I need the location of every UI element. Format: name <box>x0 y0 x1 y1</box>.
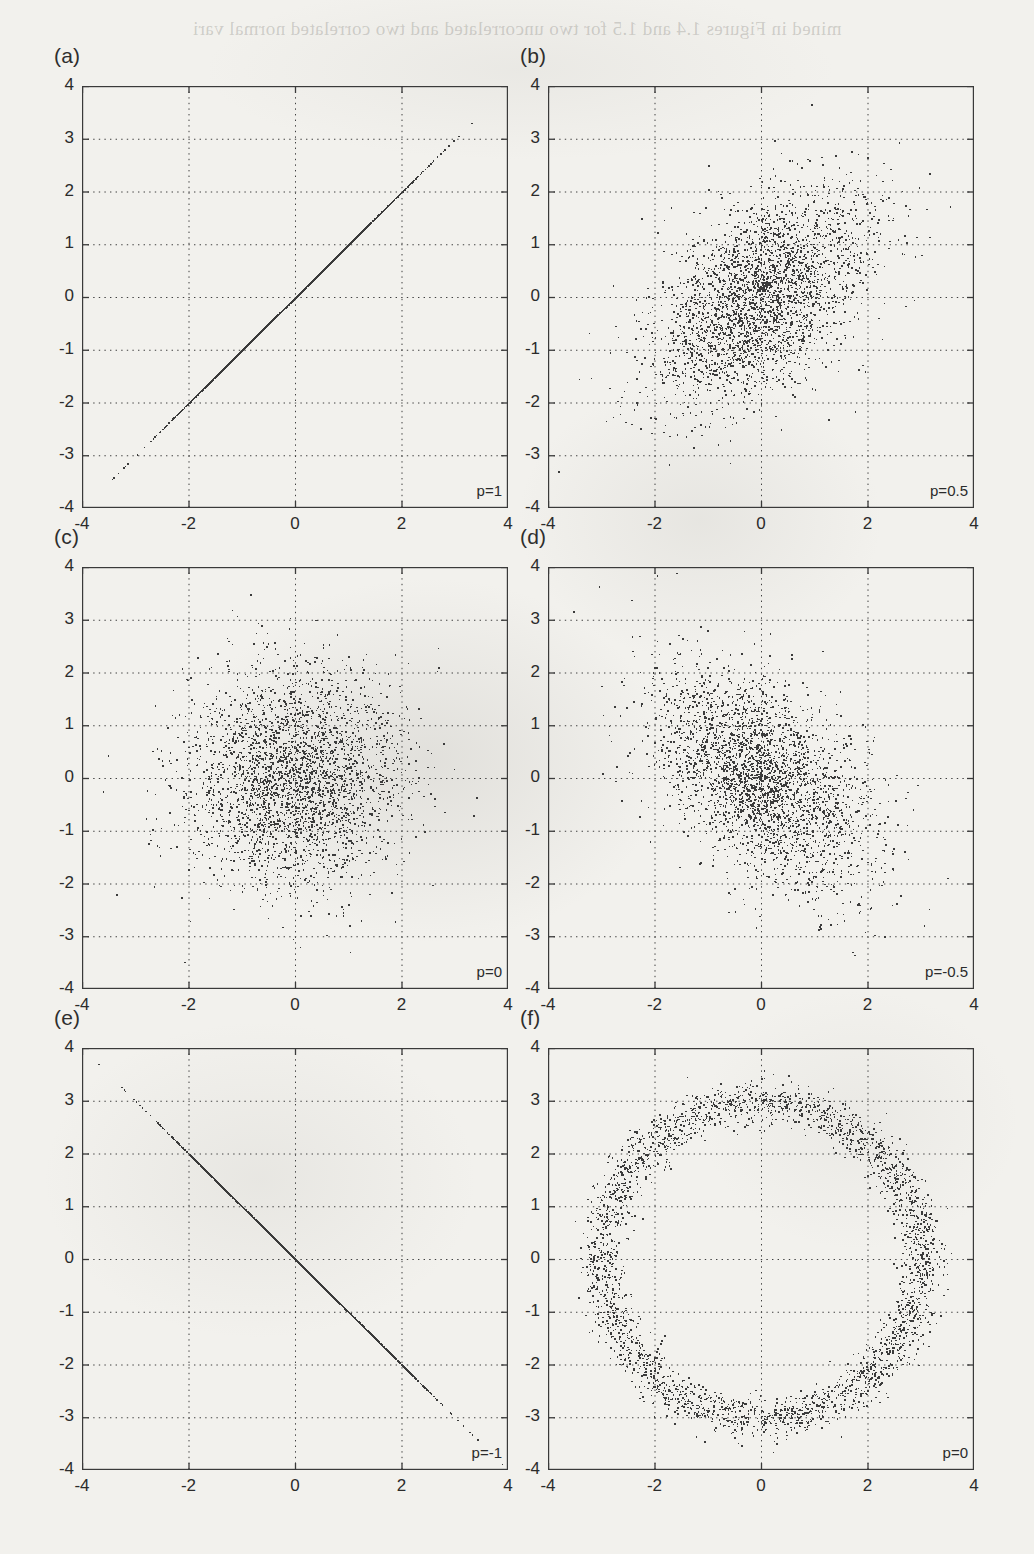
x-tick-label-f-4: 4 <box>954 1476 994 1496</box>
scatter-points-f <box>575 1070 953 1453</box>
y-tick-label-d-2: -2 <box>502 873 540 893</box>
x-tick-label-f-1: -2 <box>635 1476 675 1496</box>
plot-svg-c <box>82 567 508 989</box>
x-tick-label-e-0: -4 <box>62 1476 102 1496</box>
x-tick-label-d-3: 2 <box>848 995 888 1015</box>
gridlines-b <box>548 86 974 508</box>
plot-svg-a <box>82 86 508 508</box>
plot-area-c <box>82 567 508 989</box>
correlation-annotation-d: p=-0.5 <box>925 963 968 980</box>
plot-svg-b <box>548 86 974 508</box>
y-tick-label-f-1: -3 <box>502 1406 540 1426</box>
y-tick-label-c-1: -3 <box>36 925 74 945</box>
y-tick-label-c-4: 0 <box>36 767 74 787</box>
x-tick-label-e-1: -2 <box>169 1476 209 1496</box>
plot-area-a <box>82 86 508 508</box>
y-tick-label-e-7: 3 <box>36 1090 74 1110</box>
x-tick-label-e-2: 0 <box>275 1476 315 1496</box>
y-tick-label-f-3: -1 <box>502 1301 540 1321</box>
x-tick-label-d-2: 0 <box>741 995 781 1015</box>
scatter-points-d <box>548 573 949 956</box>
panel-label-c: (c) <box>54 525 79 549</box>
panel-label-f: (f) <box>520 1006 540 1030</box>
panel-label-d: (d) <box>520 525 546 549</box>
correlation-annotation-b: p=0.5 <box>930 482 968 499</box>
y-tick-label-e-3: -1 <box>36 1301 74 1321</box>
y-tick-label-d-5: 1 <box>502 714 540 734</box>
y-tick-label-a-7: 3 <box>36 128 74 148</box>
x-tick-label-a-1: -2 <box>169 514 209 534</box>
y-tick-label-e-8: 4 <box>36 1037 74 1057</box>
y-tick-label-b-2: -2 <box>502 392 540 412</box>
y-tick-label-a-1: -3 <box>36 444 74 464</box>
y-tick-label-c-5: 1 <box>36 714 74 734</box>
y-tick-label-d-4: 0 <box>502 767 540 787</box>
correlation-annotation-e: p=-1 <box>472 1444 502 1461</box>
y-tick-label-b-7: 3 <box>502 128 540 148</box>
y-tick-label-f-8: 4 <box>502 1037 540 1057</box>
scatter-points-e <box>98 1064 503 1465</box>
x-tick-label-f-3: 2 <box>848 1476 888 1496</box>
y-tick-label-e-5: 1 <box>36 1195 74 1215</box>
x-tick-label-d-4: 4 <box>954 995 994 1015</box>
y-tick-label-f-5: 1 <box>502 1195 540 1215</box>
x-tick-label-f-0: -4 <box>528 1476 568 1496</box>
x-tick-label-e-3: 2 <box>382 1476 422 1496</box>
y-tick-label-a-8: 4 <box>36 75 74 95</box>
x-tick-label-b-1: -2 <box>635 514 675 534</box>
y-tick-label-c-2: -2 <box>36 873 74 893</box>
y-tick-label-b-3: -1 <box>502 339 540 359</box>
x-tick-label-e-4: 4 <box>488 1476 528 1496</box>
correlation-annotation-f: p=0 <box>943 1444 968 1461</box>
y-tick-label-f-7: 3 <box>502 1090 540 1110</box>
y-tick-label-c-3: -1 <box>36 820 74 840</box>
x-tick-label-d-1: -2 <box>635 995 675 1015</box>
y-tick-label-d-8: 4 <box>502 556 540 576</box>
plot-svg-d <box>548 567 974 989</box>
x-tick-label-a-3: 2 <box>382 514 422 534</box>
y-tick-label-a-6: 2 <box>36 181 74 201</box>
y-tick-label-b-1: -3 <box>502 444 540 464</box>
plot-area-b <box>548 86 974 508</box>
x-tick-label-f-2: 0 <box>741 1476 781 1496</box>
y-tick-label-c-6: 2 <box>36 662 74 682</box>
y-tick-label-e-1: -3 <box>36 1406 74 1426</box>
y-tick-label-a-2: -2 <box>36 392 74 412</box>
y-tick-label-d-1: -3 <box>502 925 540 945</box>
panel-label-b: (b) <box>520 44 546 68</box>
y-tick-label-e-4: 0 <box>36 1248 74 1268</box>
panel-label-e: (e) <box>54 1006 80 1030</box>
y-tick-label-b-6: 2 <box>502 181 540 201</box>
x-tick-label-b-2: 0 <box>741 514 781 534</box>
x-tick-label-c-1: -2 <box>169 995 209 1015</box>
plot-area-f <box>548 1048 974 1470</box>
x-tick-label-c-2: 0 <box>275 995 315 1015</box>
x-tick-label-b-4: 4 <box>954 514 994 534</box>
gridlines-c <box>82 567 508 989</box>
y-tick-label-a-4: 0 <box>36 286 74 306</box>
y-tick-label-f-4: 0 <box>502 1248 540 1268</box>
y-tick-label-c-7: 3 <box>36 609 74 629</box>
y-tick-label-b-5: 1 <box>502 233 540 253</box>
plot-area-e <box>82 1048 508 1470</box>
correlation-annotation-c: p=0 <box>477 963 502 980</box>
figure-sheet: (a)-4-3-2-101234-4-2024p=1(b)-4-3-2-1012… <box>0 0 1034 1554</box>
y-tick-label-d-3: -1 <box>502 820 540 840</box>
y-tick-label-a-5: 1 <box>36 233 74 253</box>
y-tick-label-e-2: -2 <box>36 1354 74 1374</box>
y-tick-label-c-8: 4 <box>36 556 74 576</box>
x-tick-label-b-3: 2 <box>848 514 888 534</box>
y-tick-label-f-2: -2 <box>502 1354 540 1374</box>
scatter-points-a <box>112 123 473 481</box>
y-tick-label-b-8: 4 <box>502 75 540 95</box>
y-tick-label-a-3: -1 <box>36 339 74 359</box>
plot-area-d <box>548 567 974 989</box>
y-tick-label-e-6: 2 <box>36 1143 74 1163</box>
x-tick-label-a-2: 0 <box>275 514 315 534</box>
y-tick-label-d-6: 2 <box>502 662 540 682</box>
x-tick-label-c-3: 2 <box>382 995 422 1015</box>
panel-label-a: (a) <box>54 44 80 68</box>
y-tick-label-f-6: 2 <box>502 1143 540 1163</box>
scatter-points-b <box>558 104 974 472</box>
y-tick-label-b-4: 0 <box>502 286 540 306</box>
